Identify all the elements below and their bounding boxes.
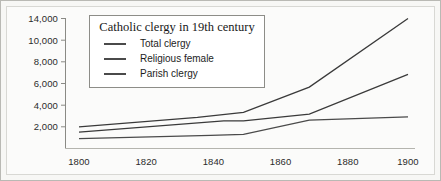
legend-swatch-icon <box>104 43 126 45</box>
legend-label: Parish clergy <box>140 68 198 80</box>
legend-label: Total clergy <box>140 38 191 50</box>
x-tick-label: 1840 <box>203 156 225 167</box>
x-tick-label: 1880 <box>337 156 359 167</box>
legend-swatch-icon <box>104 73 126 75</box>
x-tick-label: 1800 <box>68 156 90 167</box>
chart-figure: 14,000 10,000 8,000 6,000 4,000 2,000 18… <box>0 0 441 181</box>
y-tick-label: 14,000 <box>28 13 58 24</box>
chart-legend: Catholic clergy in 19th century Total cl… <box>89 15 265 88</box>
y-tick-label: 8,000 <box>34 56 58 67</box>
y-tick-label: 4,000 <box>34 100 58 111</box>
legend-swatch-icon <box>104 58 126 60</box>
legend-item-religious-female: Religious female <box>104 51 264 66</box>
y-tick-label: 10,000 <box>28 35 58 46</box>
series-line-parish-clergy <box>79 117 408 139</box>
y-axis-tick-labels: 14,000 10,000 8,000 6,000 4,000 2,000 <box>28 13 58 132</box>
y-tick-label: 2,000 <box>34 121 58 132</box>
chart-title: Catholic clergy in 19th century <box>90 20 264 34</box>
y-axis-ticks <box>61 19 66 127</box>
x-axis-tick-labels: 1800 1820 1840 1860 1880 1900 <box>68 156 419 167</box>
x-tick-label: 1860 <box>270 156 292 167</box>
legend-item-parish-clergy: Parish clergy <box>104 66 264 81</box>
legend-label: Religious female <box>140 53 214 65</box>
x-tick-label: 1820 <box>135 156 157 167</box>
x-tick-label: 1900 <box>397 156 419 167</box>
legend-item-total-clergy: Total clergy <box>104 36 264 51</box>
y-tick-label: 6,000 <box>34 78 58 89</box>
